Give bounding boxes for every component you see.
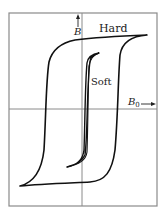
soft-loop-inner-curve xyxy=(67,53,99,167)
hysteresis-diagram: Hard Soft B B0 xyxy=(0,0,164,217)
b0-axis-label-subscript: 0 xyxy=(135,101,139,109)
b0-axis-label: B0 xyxy=(128,97,140,109)
soft-loop-curve xyxy=(67,53,99,167)
soft-label: Soft xyxy=(91,77,112,87)
hard-loop-curve xyxy=(20,35,147,186)
b-axis-label: B xyxy=(74,27,81,37)
hard-label: Hard xyxy=(99,23,127,34)
arrow-up-icon xyxy=(76,14,80,19)
arrow-right-icon xyxy=(151,102,156,106)
